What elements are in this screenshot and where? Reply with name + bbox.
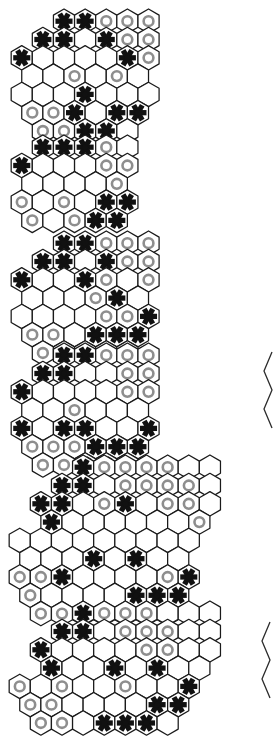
black-asterisk-piece[interactable] — [170, 697, 187, 712]
hex-board-1[interactable] — [8, 6, 238, 148]
black-asterisk-piece[interactable] — [149, 697, 166, 712]
black-asterisk-piece[interactable] — [108, 105, 125, 120]
black-asterisk-piece[interactable] — [77, 236, 94, 251]
hex-edge-path — [262, 622, 270, 698]
black-asterisk-piece[interactable] — [75, 624, 92, 639]
hex-cell[interactable] — [157, 711, 178, 735]
black-asterisk-piece[interactable] — [108, 291, 125, 306]
black-asterisk-piece[interactable] — [98, 254, 115, 269]
black-asterisk-piece[interactable] — [96, 716, 113, 731]
black-asterisk-piece[interactable] — [119, 50, 136, 65]
hex-cell[interactable] — [73, 711, 94, 735]
black-asterisk-piece[interactable] — [117, 716, 134, 731]
black-asterisk-piece[interactable] — [32, 496, 49, 511]
black-asterisk-piece[interactable] — [55, 366, 72, 381]
black-asterisk-piece[interactable] — [77, 348, 94, 363]
black-asterisk-piece[interactable] — [34, 366, 51, 381]
black-asterisk-piece[interactable] — [75, 460, 92, 475]
black-asterisk-piece[interactable] — [140, 309, 157, 324]
black-asterisk-piece[interactable] — [13, 272, 30, 287]
black-asterisk-piece[interactable] — [13, 158, 30, 173]
hex-cell[interactable] — [30, 711, 51, 735]
black-asterisk-piece[interactable] — [34, 254, 51, 269]
black-asterisk-piece[interactable] — [55, 254, 72, 269]
black-asterisk-piece[interactable] — [98, 195, 115, 210]
black-asterisk-piece[interactable] — [77, 87, 94, 102]
black-asterisk-piece[interactable] — [13, 50, 30, 65]
black-asterisk-piece[interactable] — [53, 624, 70, 639]
black-asterisk-piece[interactable] — [66, 105, 83, 120]
black-asterisk-piece[interactable] — [55, 421, 72, 436]
black-asterisk-piece[interactable] — [119, 195, 136, 210]
black-asterisk-piece[interactable] — [75, 478, 92, 493]
black-asterisk-piece[interactable] — [129, 105, 146, 120]
hex-cell[interactable] — [51, 711, 72, 735]
black-asterisk-piece[interactable] — [53, 570, 70, 585]
black-asterisk-piece[interactable] — [180, 679, 197, 694]
black-asterisk-piece[interactable] — [77, 140, 94, 155]
hex-edge-fragment-right-lower — [260, 622, 276, 698]
black-asterisk-piece[interactable] — [106, 661, 123, 676]
black-asterisk-piece[interactable] — [55, 32, 72, 47]
hex-board-6[interactable] — [6, 598, 278, 740]
black-asterisk-piece[interactable] — [98, 32, 115, 47]
hex-edge-path — [264, 352, 272, 428]
black-asterisk-piece[interactable] — [140, 421, 157, 436]
black-asterisk-piece[interactable] — [75, 606, 92, 621]
black-asterisk-piece[interactable] — [53, 496, 70, 511]
black-asterisk-piece[interactable] — [55, 348, 72, 363]
hex-board-2[interactable] — [8, 132, 217, 238]
black-asterisk-piece[interactable] — [55, 140, 72, 155]
black-asterisk-piece[interactable] — [55, 14, 72, 29]
black-asterisk-piece[interactable] — [77, 272, 94, 287]
black-asterisk-piece[interactable] — [13, 421, 30, 436]
hex-edge-fragment-right-upper — [262, 352, 278, 428]
black-asterisk-piece[interactable] — [149, 661, 166, 676]
black-asterisk-piece[interactable] — [53, 478, 70, 493]
black-asterisk-piece[interactable] — [108, 213, 125, 228]
black-asterisk-piece[interactable] — [55, 236, 72, 251]
black-asterisk-piece[interactable] — [34, 32, 51, 47]
black-asterisk-piece[interactable] — [43, 661, 60, 676]
black-asterisk-piece[interactable] — [85, 551, 102, 566]
black-asterisk-piece[interactable] — [138, 716, 155, 731]
black-asterisk-piece[interactable] — [77, 421, 94, 436]
black-asterisk-piece[interactable] — [180, 570, 197, 585]
black-asterisk-piece[interactable] — [117, 496, 134, 511]
black-asterisk-piece[interactable] — [127, 551, 144, 566]
black-asterisk-piece[interactable] — [43, 515, 60, 530]
black-asterisk-piece[interactable] — [32, 642, 49, 657]
black-asterisk-piece[interactable] — [13, 384, 30, 399]
black-asterisk-piece[interactable] — [77, 14, 94, 29]
black-asterisk-piece[interactable] — [87, 213, 104, 228]
black-asterisk-piece[interactable] — [34, 140, 51, 155]
